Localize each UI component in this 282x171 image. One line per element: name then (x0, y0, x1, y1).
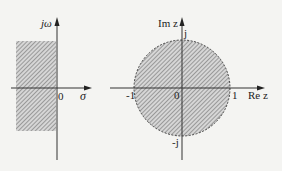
s-plane-z-plane-mapping-figure: jω 0 σ Im z j -1 0 1 Re z -j (0, 0, 282, 171)
sigma-label: σ (80, 89, 87, 103)
tick-neg-j-label: -j (172, 136, 179, 148)
left-half-plane-region (16, 41, 56, 131)
z-plane: Im z j -1 0 1 Re z -j (110, 17, 268, 160)
im-z-axis-arrow-icon (180, 17, 185, 26)
s-plane: jω 0 σ (11, 17, 92, 160)
tick-j-label: j (183, 27, 187, 39)
re-z-label: Re z (248, 89, 268, 101)
im-z-label: Im z (158, 17, 178, 29)
origin-label-right: 0 (174, 89, 180, 101)
jomega-axis-arrow-icon (55, 17, 60, 26)
jomega-label: jω (39, 17, 52, 29)
origin-label-left: 0 (58, 90, 64, 102)
tick-neg-one-label: -1 (126, 89, 135, 101)
tick-one-label: 1 (232, 89, 238, 101)
